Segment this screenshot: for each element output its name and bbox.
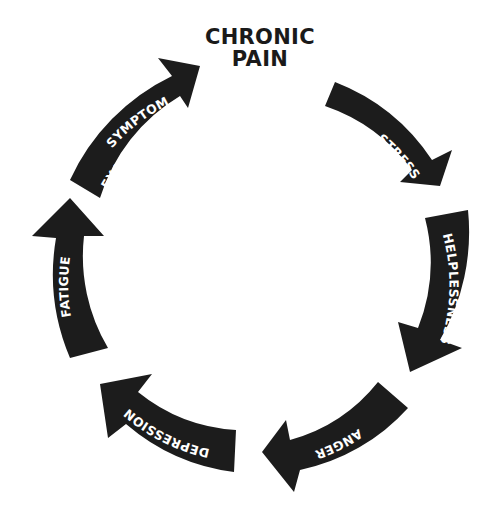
curved-arrow-icon (262, 382, 408, 492)
curved-arrow-icon (325, 82, 452, 186)
arrow-stress: STRESS (325, 82, 452, 186)
arrow-symptom-exacerbation: SYMPTOM EXACERBATION (70, 58, 200, 198)
arrow-depression: DEPRESSION (100, 374, 236, 472)
arrow-anger: ANGER (262, 382, 408, 492)
arrow-fatigue: FATIGUE (32, 198, 108, 358)
arrow-helplessness: HELPLESSNESS (398, 210, 469, 372)
cycle-diagram: STRESS HELPLESSNESS ANGER DEPRESSION FAT… (0, 0, 496, 516)
curved-arrow-icon (100, 374, 236, 472)
